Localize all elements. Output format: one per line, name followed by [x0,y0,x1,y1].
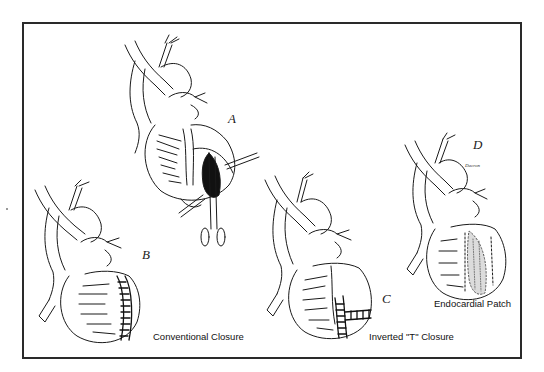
caption-endocardial-patch: Endocardial Patch [434,298,511,309]
dacron-annotation: Dacron [465,163,480,168]
caption-inverted-t-closure: Inverted "T" Closure [369,331,454,342]
panel-letter-d: D [473,137,482,153]
panel-d-drawing [405,133,506,300]
panel-a-drawing [125,35,259,246]
panel-letter-b: B [142,247,150,263]
caption-conventional-closure: Conventional Closure [153,331,244,342]
illustration-canvas [0,0,544,372]
panel-letter-a: A [228,111,236,127]
panel-c-drawing [265,172,371,339]
panel-b-drawing [35,180,140,343]
panel-letter-c: C [382,291,391,307]
